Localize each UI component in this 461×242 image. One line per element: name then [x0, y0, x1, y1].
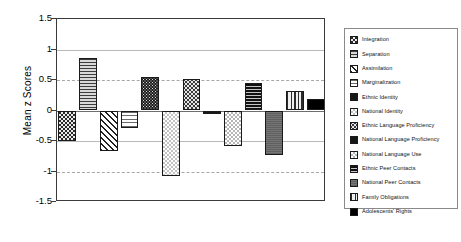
legend-swatch-icon [350, 93, 358, 101]
legend-item: Marginalization [350, 76, 454, 90]
legend-item-label: Integration [362, 37, 389, 43]
bar [183, 79, 201, 110]
bar [307, 99, 325, 111]
legend-swatch-icon [350, 122, 358, 130]
legend-item-label: Family Obligations [362, 195, 409, 201]
legend-item-label: Ethnic Identity [362, 95, 398, 101]
bar [58, 111, 76, 142]
legend-swatch-icon [350, 36, 358, 44]
legend-item-label: National Peer Contacts [362, 180, 421, 186]
y-tick-label: -1.5 [26, 196, 52, 206]
legend-item: Assimilation [350, 62, 454, 76]
y-tick-mark [51, 201, 56, 202]
legend-item: Ethnic Peer Contacts [350, 162, 454, 176]
legend-item: Family Obligations [350, 190, 454, 204]
y-tick-label: -1 [26, 166, 52, 176]
legend-item: Separation [350, 47, 454, 61]
legend-item: National Peer Contacts [350, 176, 454, 190]
bar-chart-figure: Mean z Scores 1.510.50-0.5-1-1.5 Integra… [0, 0, 461, 242]
y-tick-label: 0.5 [26, 74, 52, 84]
legend-swatch-icon [350, 165, 358, 173]
legend-item-label: Adolescents' Rights [362, 209, 412, 215]
legend-item-label: Ethnic Peer Contacts [362, 166, 416, 172]
legend-swatch-icon [350, 79, 358, 87]
y-tick-mark [51, 110, 56, 111]
y-tick-mark [51, 49, 56, 50]
y-tick-mark [51, 79, 56, 80]
y-tick-mark [51, 18, 56, 19]
legend-item: National Identity [350, 104, 454, 118]
legend-swatch-icon [350, 208, 358, 216]
legend-item: Adolescents' Rights [350, 205, 454, 219]
y-tick-mark [51, 171, 56, 172]
legend-item-label: Marginalization [362, 80, 400, 86]
legend-item-label: National Language Use [362, 152, 422, 158]
bar [224, 111, 242, 146]
bar [265, 111, 283, 156]
legend-item: Integration [350, 33, 454, 47]
y-tick-label: 1 [26, 44, 52, 54]
bar [162, 111, 180, 177]
legend-swatch-icon [350, 65, 358, 73]
bar [203, 111, 221, 115]
bar-series [57, 19, 324, 200]
chart-legend: IntegrationSeparationAssimilationMargina… [344, 28, 458, 209]
legend-item: Ethnic Identity [350, 90, 454, 104]
legend-swatch-icon [350, 179, 358, 187]
y-tick-label: 0 [26, 105, 52, 115]
y-axis-tick-labels: 1.510.50-0.5-1-1.5 [22, 0, 52, 242]
legend-item: Ethnic Language Proficiency [350, 119, 454, 133]
bar [141, 77, 159, 111]
bar [245, 83, 263, 110]
legend-item: National Language Use [350, 147, 454, 161]
bar [100, 111, 118, 151]
legend-item-label: National Language Proficiency [362, 137, 439, 143]
y-tick-label: -0.5 [26, 135, 52, 145]
legend-item-label: Assimilation [362, 66, 392, 72]
legend-swatch-icon [350, 193, 358, 201]
legend-item-label: Separation [362, 52, 390, 58]
y-tick-label: 1.5 [26, 13, 52, 23]
legend-item: National Language Proficiency [350, 133, 454, 147]
legend-swatch-icon [350, 136, 358, 144]
legend-swatch-icon [350, 50, 358, 58]
bar [286, 91, 304, 111]
legend-item-label: National Identity [362, 109, 403, 115]
legend-swatch-icon [350, 151, 358, 159]
y-tick-mark [51, 140, 56, 141]
bar [121, 111, 139, 129]
legend-swatch-icon [350, 108, 358, 116]
legend-item-label: Ethnic Language Proficiency [362, 123, 434, 129]
bar [79, 58, 97, 110]
plot-area [56, 18, 325, 201]
